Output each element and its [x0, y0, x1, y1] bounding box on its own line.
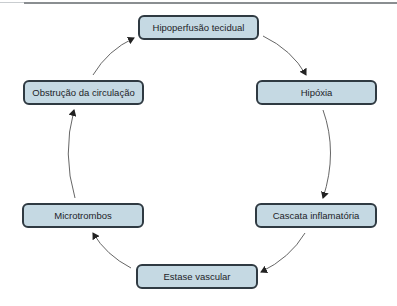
node-label: Obstrução da circulação — [32, 87, 134, 98]
arrow-estase-to-microtrombos — [93, 233, 131, 268]
arrow-hipoperfusao-to-hipoxia — [263, 36, 306, 75]
node-label: Cascata inflamatória — [273, 210, 360, 221]
node-hipoxia: Hipóxia — [256, 80, 377, 105]
node-label: Microtrombos — [54, 210, 112, 221]
arrow-obstrucao-to-hipoperfusao — [93, 38, 134, 75]
arrow-hipoxia-to-cascata — [323, 110, 331, 198]
node-microtrombos: Microtrombos — [22, 203, 144, 228]
node-obstrucao-da-circulacao: Obstrução da circulação — [23, 80, 144, 105]
cycle-arrows — [0, 0, 397, 306]
arrow-microtrombos-to-obstrucao — [68, 110, 75, 198]
node-label: Hipoperfusão tecidual — [153, 22, 245, 33]
node-cascata-inflamatoria: Cascata inflamatória — [255, 203, 377, 228]
node-label: Hipóxia — [301, 87, 333, 98]
node-label: Estase vascular — [163, 271, 230, 282]
node-estase-vascular: Estase vascular — [136, 264, 258, 289]
arrow-cascata-to-estase — [261, 233, 305, 272]
node-hipoperfusao-tecidual: Hipoperfusão tecidual — [138, 15, 259, 40]
